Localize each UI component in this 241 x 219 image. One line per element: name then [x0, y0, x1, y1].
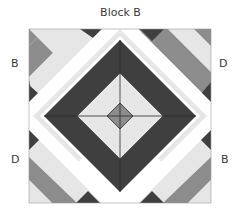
- quilt-block-diagram: [0, 0, 241, 219]
